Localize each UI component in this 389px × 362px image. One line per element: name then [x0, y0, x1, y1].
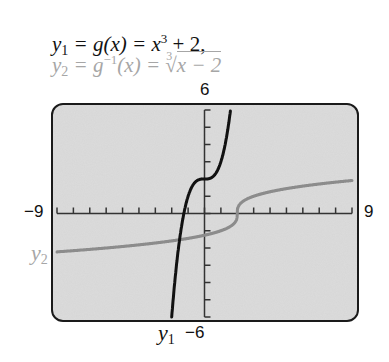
- graph-screen: [0, 0, 389, 362]
